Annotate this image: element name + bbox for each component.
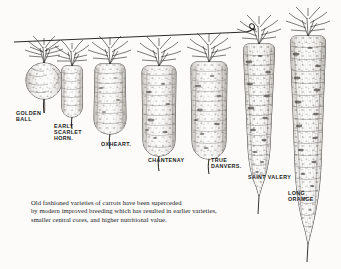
taproot-true-danvers (208, 159, 209, 174)
foliage-true-danvers (187, 33, 231, 62)
caption-line-2: by modern improved breeding which has re… (31, 207, 281, 215)
foliage-saint-valery (237, 15, 281, 44)
foliage-early-scarlet-horn (55, 40, 89, 66)
variety-label-true-danvers: TRUE DANVERS. (211, 157, 242, 169)
variety-label-oxheart: OXHEART. (101, 141, 131, 147)
caption-line-3: smaller central cores, and higher nutrit… (31, 216, 281, 224)
variety-label-saint-valery: SAINT VALERY (248, 174, 291, 180)
carrot-golden-ball (24, 36, 66, 113)
variety-label-long-orange: LONG ORANGE (288, 190, 314, 202)
variety-label-golden-ball: GOLDEN BALL (16, 110, 41, 122)
ground-line (14, 24, 256, 42)
illustration-plate: GOLDEN BALL EARLY SCARLET HORN. OXHEART.… (0, 0, 341, 269)
caption-block: Old fashioned varieties of carrots have … (31, 199, 281, 224)
carrot-varieties-engraving (0, 0, 341, 269)
carrot-chantenay (137, 37, 181, 171)
variety-label-early-scarlet-horn: EARLY SCARLET HORN. (54, 123, 82, 142)
foliage-long-orange (286, 7, 330, 36)
carrot-saint-valery (237, 15, 281, 214)
foliage-chantenay (137, 37, 181, 66)
foliage-oxheart (88, 36, 131, 64)
taproot-long-orange (307, 244, 308, 262)
carrot-oxheart (88, 36, 131, 149)
carrot-long-orange (286, 7, 330, 262)
variety-label-chantenay: CHANTENAY (148, 157, 185, 163)
caption-line-1: Old fashioned varieties of carrots have … (31, 199, 281, 207)
carrot-true-danvers (187, 33, 231, 174)
